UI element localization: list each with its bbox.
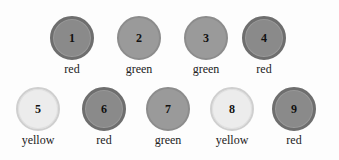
ball-label: yellow	[202, 134, 262, 147]
ball-label: red	[234, 63, 294, 76]
ball-item: 9 red	[264, 87, 324, 147]
ball-label: yellow	[8, 134, 68, 147]
ball-item: 5 yellow	[8, 87, 68, 147]
ball-circle: 9	[272, 87, 316, 131]
ball-item: 4 red	[234, 16, 294, 76]
ball-circle: 1	[50, 16, 94, 60]
ball-label: red	[42, 63, 102, 76]
ball-item: 1 red	[42, 16, 102, 76]
ball-item: 7 green	[138, 87, 198, 147]
ball-item: 8 yellow	[202, 87, 262, 147]
ball-circle: 4	[242, 16, 286, 60]
ball-circle: 5	[16, 87, 60, 131]
ball-item: 3 green	[176, 16, 236, 76]
ball-circle: 3	[184, 16, 228, 60]
ball-circle: 6	[82, 87, 126, 131]
ball-label: green	[176, 63, 236, 76]
ball-circle: 2	[117, 16, 161, 60]
ball-item: 2 green	[109, 16, 169, 76]
ball-label: green	[138, 134, 198, 147]
ball-circle: 8	[210, 87, 254, 131]
ball-label: red	[264, 134, 324, 147]
ball-label: red	[74, 134, 134, 147]
ball-circle: 7	[146, 87, 190, 131]
ball-label: green	[109, 63, 169, 76]
ball-item: 6 red	[74, 87, 134, 147]
